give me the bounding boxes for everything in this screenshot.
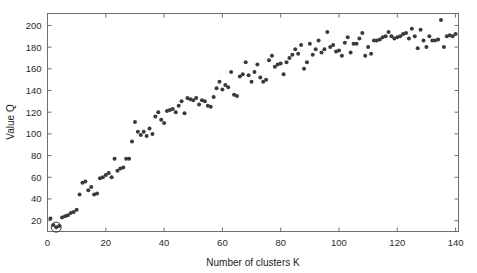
data-point [133,120,137,124]
data-point [413,34,417,38]
data-point [217,80,221,84]
data-point [241,72,245,76]
data-point [279,61,283,65]
data-point [171,107,175,111]
x-tick-label: 100 [331,237,347,248]
data-point [416,46,420,50]
data-point [148,126,152,130]
data-point [150,132,154,136]
y-tick-label: 120 [26,107,42,118]
data-point [226,85,230,89]
data-point [183,111,187,115]
data-point [48,216,52,220]
data-point [442,45,446,49]
data-point [113,157,117,161]
data-point [422,39,426,43]
y-tick-label: 200 [26,20,42,31]
data-point [244,60,248,64]
plot-frame [48,14,459,232]
data-point [130,139,134,143]
data-point [177,104,181,108]
x-tick-label: 60 [217,237,228,248]
data-point [296,52,300,56]
data-point [139,133,143,137]
data-point [407,36,411,40]
data-point [439,18,443,22]
data-point [314,47,318,51]
data-point [270,54,274,58]
data-point [282,72,286,76]
data-point [162,121,166,125]
x-axis-ticks: 020406080100120140 [45,14,464,248]
data-point [366,45,370,49]
axes-border [48,14,459,232]
data-point [424,45,428,49]
x-tick-label: 140 [448,237,464,248]
data-point [387,30,391,34]
data-point [287,56,291,60]
data-point [299,43,303,47]
x-tick-label: 20 [101,237,112,248]
data-point [302,67,306,71]
data-point [235,94,239,98]
scatter-plot: 020406080100120140 204060801001201401601… [0,0,477,273]
data-point [337,48,341,52]
data-point [107,171,111,175]
data-point [293,47,297,51]
data-point [285,60,289,64]
data-point [121,166,125,170]
data-point [197,103,201,107]
data-point [136,130,140,134]
data-point [360,31,364,35]
data-point [229,70,233,74]
data-point [267,58,271,62]
data-points [48,18,457,229]
data-point [83,180,87,184]
data-point [75,208,79,212]
data-point [343,41,347,45]
data-point [250,80,254,84]
data-point [95,192,99,196]
y-tick-label: 160 [26,63,42,74]
data-point [78,193,82,197]
data-point [215,86,219,90]
data-point [427,34,431,38]
data-point [346,35,350,39]
x-axis-title: Number of clusters K [206,257,300,268]
data-point [290,53,294,57]
figure-container: 020406080100120140 204060801001201401601… [0,0,477,273]
data-point [404,31,408,35]
data-point [194,96,198,100]
y-tick-label: 40 [31,193,42,204]
data-point [89,185,93,189]
x-tick-label: 120 [389,237,405,248]
data-point [340,54,344,58]
data-point [317,39,321,43]
data-point [363,54,367,58]
data-point [180,99,184,103]
data-point [86,188,90,192]
data-point [156,110,160,114]
data-point [419,28,423,32]
data-point [264,78,268,82]
data-point [247,73,251,77]
y-tick-label: 100 [26,128,42,139]
y-tick-label: 180 [26,42,42,53]
x-tick-label: 80 [275,237,286,248]
data-point [255,62,259,66]
data-point [410,27,414,31]
data-point [349,51,353,55]
data-point [325,30,329,34]
y-tick-label: 80 [31,150,42,161]
data-point [174,110,178,114]
data-point [311,53,315,57]
data-point [369,52,373,56]
data-point [142,130,146,134]
y-tick-label: 20 [31,215,42,226]
data-point [384,34,388,38]
y-axis-title: Value Q [5,104,16,140]
data-point [252,70,256,74]
data-point [305,60,309,64]
y-axis-ticks: 20406080100120140160180200 [26,20,459,226]
data-point [308,42,312,46]
